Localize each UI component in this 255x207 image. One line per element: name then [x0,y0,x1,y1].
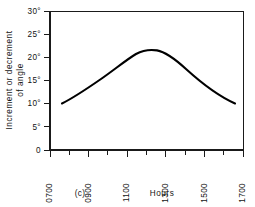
y-tick-label-20: 20° [28,53,41,62]
y-axis-title-line2: of angle [16,63,25,97]
y-tick-label-15: 15° [28,76,41,85]
y-axis-title: Increment or decrement of angle [5,30,25,129]
data-series-curve [62,50,235,104]
x-tick-label-1500: 1500 [200,183,209,203]
line-chart: 30° 25° 20° 15° 10° 5° 0 0700 [0,0,255,207]
y-axis-tick-labels: 30° 25° 20° 15° 10° 5° 0 [28,7,42,155]
y-axis-title-line1: Increment or decrement [5,30,14,129]
y-tick-label-25: 25° [28,30,41,39]
x-axis-title: Hours [150,189,175,198]
y-tick-label-5: 5° [32,123,41,132]
plot-frame [50,11,243,150]
x-axis-minor-ticks [69,150,223,155]
x-tick-label-1100: 1100 [122,183,131,202]
y-axis-ticks [44,11,50,150]
x-tick-label-0700: 0700 [45,183,54,203]
panel-caption: (c) [75,189,86,198]
y-tick-label-10: 10° [28,99,41,108]
y-tick-label-30: 30° [28,7,41,16]
y-tick-label-0: 0 [36,146,41,155]
x-tick-label-1700: 1700 [238,183,247,203]
chart-figure: 30° 25° 20° 15° 10° 5° 0 0700 [0,0,255,207]
